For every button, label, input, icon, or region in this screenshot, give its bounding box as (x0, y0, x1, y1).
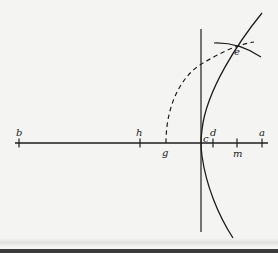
label-h: h (136, 127, 142, 138)
label-g: g (162, 147, 168, 158)
label-m: m (233, 148, 242, 159)
scan-bottom-border (0, 249, 278, 253)
label-d: d (210, 127, 216, 138)
label-b: b (16, 127, 22, 138)
diagram-canvas: b h g c d m a e (0, 0, 278, 253)
hyperbola-curve (201, 13, 262, 238)
geometric-construction-figure: b h g c d m a e (0, 0, 278, 253)
label-c: c (203, 133, 209, 144)
label-e: e (234, 46, 240, 57)
label-a: a (259, 127, 265, 138)
